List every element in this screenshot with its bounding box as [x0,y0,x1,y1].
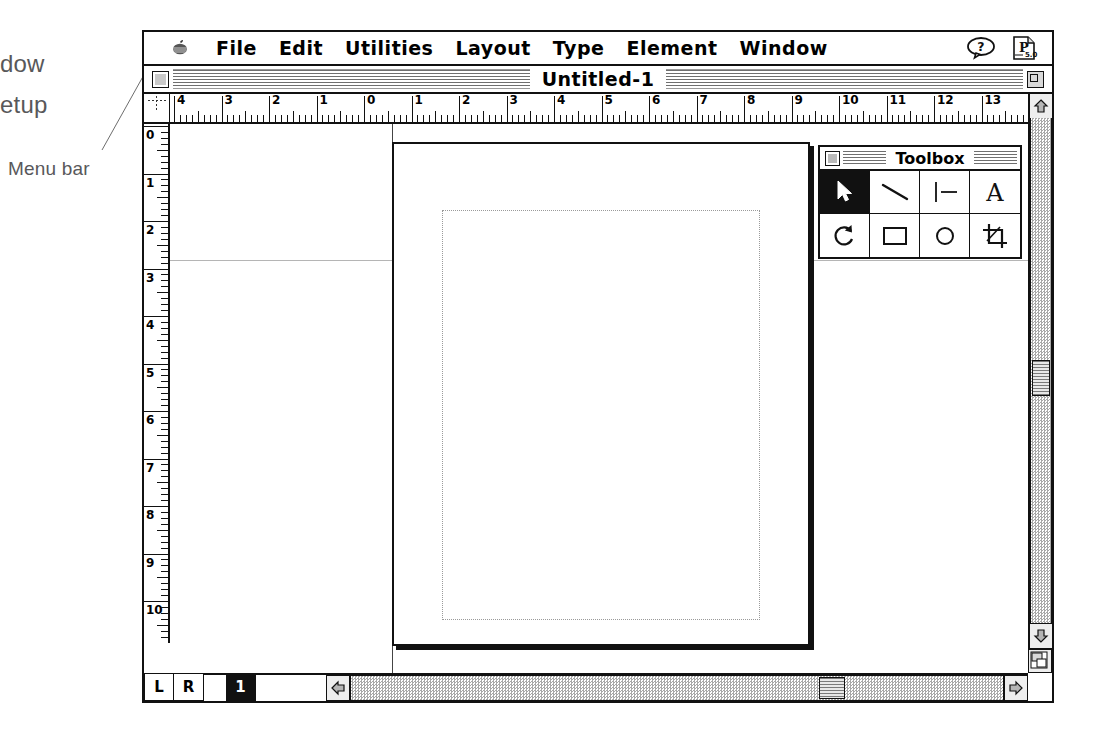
ruler-label: 2 [146,223,154,237]
ruler-minor-tick [161,548,168,549]
ruler-minor-tick [161,274,168,275]
scroll-left-button[interactable] [326,675,350,701]
ruler-minor-tick [869,115,870,122]
page-icon-1[interactable]: 1 [226,673,256,701]
ruler-minor-tick [161,464,168,465]
ruler-minor-tick [161,286,168,287]
vertical-ruler[interactable]: 01234567891011 [144,124,170,643]
menu-item-file[interactable]: File [216,37,257,59]
ruler-label: 9 [795,94,803,107]
ruler-minor-tick [161,203,168,204]
ruler-label: 4 [177,94,185,107]
horizontal-scroll-thumb[interactable] [819,677,845,699]
annotation-setup-cut: etup [0,91,48,119]
line-tool[interactable] [870,171,920,214]
ruler-minor-tick [161,144,168,145]
ruler-minor-tick [417,115,418,122]
ruler-minor-tick [797,115,798,122]
ruler-minor-tick [999,115,1000,122]
scroll-down-button[interactable] [1030,623,1052,649]
ruler-minor-tick [970,115,971,122]
ruler-minor-tick [892,115,893,122]
ruler-minor-tick [161,476,168,477]
menu-item-element[interactable]: Element [626,37,717,59]
ruler-origin-box[interactable] [144,94,170,122]
ruler-minor-tick [245,111,246,122]
document-title-bar[interactable]: Untitled-1 [144,66,1052,94]
menu-item-window[interactable]: Window [740,37,828,59]
ruler-label: 6 [652,94,660,107]
ruler-minor-tick [161,239,168,240]
ruler-major-tick [269,96,270,122]
arrow-pointer-icon [833,179,857,205]
ruler-label: 0 [367,94,375,107]
document-page[interactable] [392,142,810,646]
zoom-box-icon[interactable] [1027,71,1044,88]
master-page-right[interactable]: R [174,673,204,701]
rectangle-tool[interactable] [870,214,920,257]
ruler-label: 10 [842,94,859,107]
ruler-major-tick [507,96,508,122]
constrained-line-tool[interactable] [920,171,970,214]
menu-item-type[interactable]: Type [553,37,605,59]
ruler-minor-tick [161,500,168,501]
apple-menu-icon[interactable] [170,38,190,58]
ruler-minor-tick [643,115,644,122]
ruler-minor-tick [161,209,168,210]
ruler-minor-tick [489,115,490,122]
scroll-right-button[interactable] [1004,675,1028,701]
ruler-major-tick [317,96,318,122]
ruler-minor-tick [161,494,168,495]
svg-text:A: A [985,179,1004,206]
pagemaker-5-icon[interactable]: P 5.0 [1010,35,1038,61]
ruler-minor-tick [352,115,353,122]
toolbox-palette[interactable]: Toolbox A [818,145,1022,259]
ruler-minor-tick [667,115,668,122]
ruler-minor-tick [904,115,905,122]
ruler-minor-tick [738,115,739,122]
ruler-minor-tick [465,115,466,122]
pointer-tool[interactable] [820,171,870,214]
ruler-minor-tick [275,115,276,122]
ellipse-tool[interactable] [920,214,970,257]
ruler-minor-tick [161,631,168,632]
ruler-minor-tick [161,257,168,258]
ruler-minor-tick [495,115,496,122]
ruler-minor-tick [161,542,168,543]
ruler-minor-tick [732,115,733,122]
ruler-minor-tick [186,115,187,122]
rotate-tool[interactable] [820,214,870,257]
vertical-scrollbar[interactable] [1028,94,1052,673]
ruler-major-tick [144,269,168,270]
ruler-minor-tick [976,115,977,122]
window-grow-box[interactable] [1028,649,1052,673]
menu-item-edit[interactable]: Edit [279,37,323,59]
ruler-minor-tick [946,115,947,122]
vertical-scroll-track[interactable] [1030,118,1052,625]
horizontal-scroll-track[interactable] [350,675,1004,701]
ruler-major-tick [144,126,168,127]
horizontal-scrollbar[interactable] [144,673,1028,701]
ruler-minor-tick [922,115,923,122]
close-box-icon[interactable] [152,71,169,88]
master-page-left[interactable]: L [144,673,174,701]
menu-bar-right-group: ? P 5.0 [966,35,1052,61]
toolbox-title-bar[interactable]: Toolbox [820,147,1020,171]
text-tool[interactable]: A [970,171,1020,214]
ruler-minor-tick [161,583,168,584]
cropping-tool[interactable] [970,214,1020,257]
ruler-minor-tick [161,191,168,192]
ruler-minor-tick [910,111,911,122]
menu-item-layout[interactable]: Layout [455,37,530,59]
ruler-label: 12 [937,94,954,107]
ruler-label: 3 [225,94,233,107]
vertical-scroll-thumb[interactable] [1032,360,1050,396]
help-balloon-icon[interactable]: ? [966,36,996,60]
close-box-icon[interactable] [825,151,840,166]
ruler-major-tick [792,96,793,122]
horizontal-ruler[interactable]: 4321012345678910111213 [144,94,1052,124]
ruler-minor-tick [566,115,567,122]
scroll-up-button[interactable] [1030,94,1052,119]
menu-item-utilities[interactable]: Utilities [345,37,433,59]
ruler-minor-tick [613,115,614,122]
